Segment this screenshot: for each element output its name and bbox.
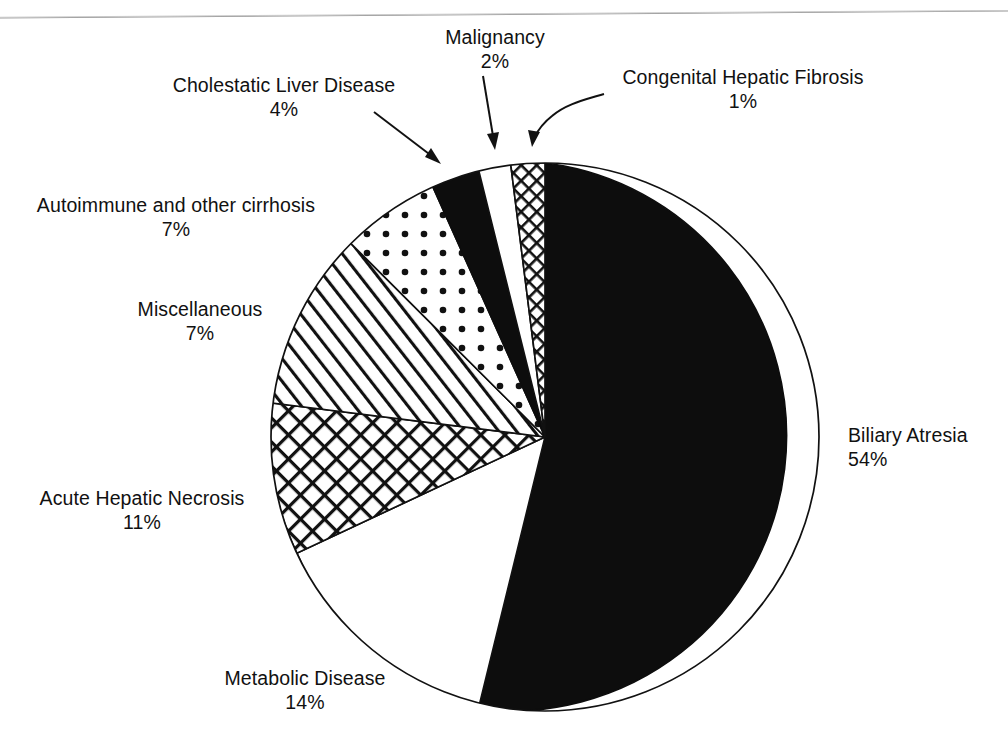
- slice-label-name: Congenital Hepatic Fibrosis: [622, 66, 863, 88]
- slice-label-percent: 14%: [185, 691, 425, 715]
- slice-label-name: Malignancy: [445, 26, 545, 48]
- slice-label-acute-hepatic-necrosis: Acute Hepatic Necrosis 11%: [20, 487, 264, 535]
- slice-label-name: Cholestatic Liver Disease: [173, 74, 396, 96]
- slice-label-cholestatic-liver-disease: Cholestatic Liver Disease 4%: [160, 74, 408, 122]
- slice-label-percent: 54%: [848, 448, 1008, 472]
- slice-label-metabolic-disease: Metabolic Disease 14%: [185, 667, 425, 715]
- slice-label-percent: 2%: [415, 50, 575, 74]
- slice-label-percent: 7%: [24, 218, 328, 242]
- slice-label-name: Miscellaneous: [138, 298, 263, 320]
- leader-arrow-congenital-hepatic-fibrosis: [528, 94, 604, 147]
- leader-arrow-malignancy: [483, 76, 499, 150]
- slice-label-percent: 11%: [20, 511, 264, 535]
- slice-label-percent: 4%: [160, 98, 408, 122]
- slice-label-name: Biliary Atresia: [848, 424, 968, 446]
- slice-label-autoimmune-and-other-cirrhosis: Autoimmune and other cirrhosis 7%: [24, 194, 328, 242]
- slice-label-malignancy: Malignancy 2%: [415, 26, 575, 74]
- pie-chart-page: Cholestatic Liver Disease 4% Malignancy …: [0, 0, 1008, 752]
- slice-label-name: Autoimmune and other cirrhosis: [37, 194, 315, 216]
- slice-label-name: Acute Hepatic Necrosis: [40, 487, 245, 509]
- slice-label-name: Metabolic Disease: [224, 667, 385, 689]
- slice-label-miscellaneous: Miscellaneous 7%: [104, 298, 296, 346]
- slice-label-percent: 1%: [598, 90, 888, 114]
- slice-label-congenital-hepatic-fibrosis: Congenital Hepatic Fibrosis 1%: [598, 66, 888, 114]
- slice-label-percent: 7%: [104, 322, 296, 346]
- slice-label-biliary-atresia: Biliary Atresia 54%: [848, 424, 1008, 472]
